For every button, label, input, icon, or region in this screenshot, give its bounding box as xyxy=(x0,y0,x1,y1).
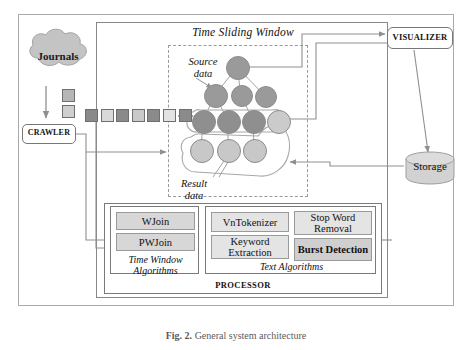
stream-square xyxy=(147,109,160,122)
algorithm-chip-keyword-extraction[interactable]: Keyword Extraction xyxy=(211,235,289,259)
algorithm-chip-stop-word-removal[interactable]: Stop Word Removal xyxy=(294,211,372,235)
figure-caption-label: Fig. 2. xyxy=(166,330,192,341)
algorithm-chip-vntokenizer[interactable]: VnTokenizer xyxy=(211,212,289,232)
stream-square xyxy=(116,109,129,122)
processor-label: PROCESSOR xyxy=(104,280,382,290)
stream-square xyxy=(85,109,98,122)
figure-root: Time Sliding Window Source data Result d… xyxy=(0,0,472,350)
tw-caption-line1: Time Window xyxy=(111,254,200,265)
algorithm-chip-burst-detection[interactable]: Burst Detection xyxy=(294,238,372,261)
stream-square xyxy=(163,109,176,122)
time-window-algorithms-group: WJoin PWJoin Time Window Algorithms xyxy=(110,206,199,274)
time-window-algorithms-caption: Time Window Algorithms xyxy=(111,254,200,276)
stream-square xyxy=(101,109,114,122)
text-algorithms-caption: Text Algorithms xyxy=(206,261,377,272)
tw-caption-line2: Algorithms xyxy=(111,265,200,276)
algorithm-chip-wjoin[interactable]: WJoin xyxy=(116,212,195,230)
stream-square xyxy=(179,109,192,122)
figure-caption: Fig. 2. General system architecture xyxy=(0,330,472,341)
algorithm-chip-pwjoin[interactable]: PWJoin xyxy=(116,233,195,251)
stream-square xyxy=(132,109,145,122)
text-algorithms-group: VnTokenizer Stop Word Removal Keyword Ex… xyxy=(205,206,376,274)
stream-squares xyxy=(0,0,472,350)
figure-caption-text: General system architecture xyxy=(195,330,307,341)
